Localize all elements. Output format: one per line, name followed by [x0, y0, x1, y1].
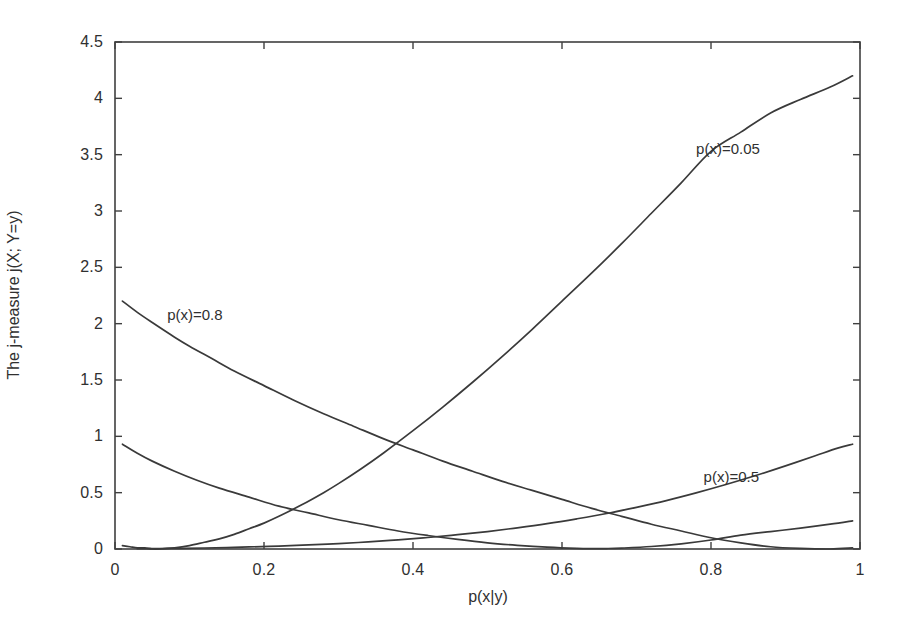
y-tick-label: 2 [40, 315, 103, 333]
x-tick-label: 0 [110, 561, 119, 579]
curve-annotation-p08: p(x)=0.8 [167, 306, 222, 323]
figure-container: 00.511.522.533.544.5 00.20.40.60.81 The … [0, 0, 900, 630]
curve-p-x-0-5 [122, 444, 852, 548]
y-tick-label: 4.5 [40, 33, 103, 51]
x-axis-label: p(x|y) [468, 588, 508, 606]
chart-canvas [0, 0, 900, 630]
y-tick-label: 0.5 [40, 484, 103, 502]
y-axis-label: The j-measure j(X; Y=y) [5, 210, 23, 379]
x-tick-label: 1 [855, 561, 864, 579]
y-tick-label: 0 [40, 540, 103, 558]
x-tick-label: 0.2 [253, 561, 276, 579]
y-tick-label: 3 [40, 202, 103, 220]
curve-annotation-p05: p(x)=0.5 [704, 468, 759, 485]
curve-p-x-0-8 [122, 301, 852, 549]
x-tick-label: 0.8 [700, 561, 723, 579]
y-tick-label: 4 [40, 89, 103, 107]
curve-annotation-p005: p(x)=0.05 [696, 140, 760, 157]
x-tick-label: 0.4 [402, 561, 425, 579]
y-tick-label: 1.5 [40, 371, 103, 389]
y-tick-label: 2.5 [40, 258, 103, 276]
y-tick-label: 1 [40, 427, 103, 445]
y-tick-label: 3.5 [40, 146, 103, 164]
x-tick-label: 0.6 [551, 561, 574, 579]
